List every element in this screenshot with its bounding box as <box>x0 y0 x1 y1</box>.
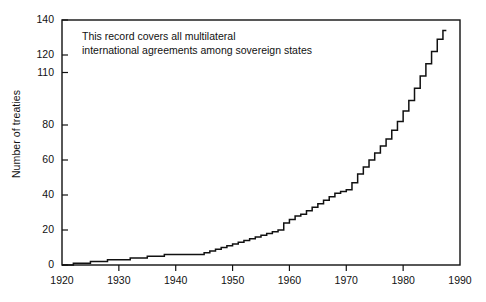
data-series-group <box>62 31 446 266</box>
y-tick-marks <box>62 20 68 265</box>
x-tick-marks <box>62 265 460 271</box>
plot-frame <box>62 20 460 265</box>
plot-area <box>0 0 486 302</box>
axis-frame <box>62 20 460 265</box>
data-series-line <box>62 31 446 266</box>
chart-figure: Number of treaties This record covers al… <box>0 0 486 302</box>
